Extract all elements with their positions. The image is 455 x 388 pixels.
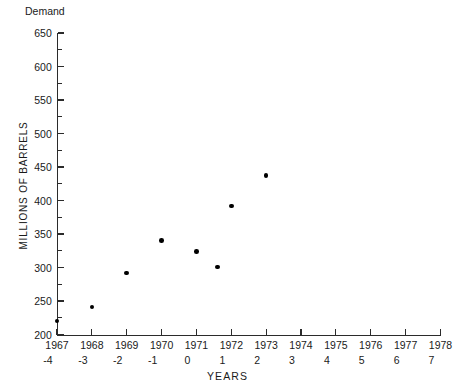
y-tick-label-wrap: 550 bbox=[18, 100, 52, 101]
y-tick-major bbox=[58, 334, 64, 335]
y-tick-label-wrap: 500 bbox=[18, 134, 52, 135]
y-tick-label: 500 bbox=[22, 129, 52, 140]
y-tick-minor bbox=[58, 49, 62, 50]
x-tick bbox=[56, 329, 57, 335]
x-tick bbox=[196, 329, 197, 335]
y-tick-minor bbox=[58, 284, 62, 285]
y-tick-major bbox=[58, 233, 64, 234]
x-tick bbox=[370, 329, 371, 335]
data-point bbox=[215, 265, 220, 270]
y-tick-minor bbox=[58, 250, 62, 251]
y-tick-label-wrap: 250 bbox=[18, 301, 52, 302]
y-tick-minor bbox=[58, 116, 62, 117]
x-tick bbox=[335, 329, 336, 335]
y-tick-major bbox=[58, 267, 64, 268]
x-tick bbox=[91, 329, 92, 335]
x-tick bbox=[126, 329, 127, 335]
x-tick-label-code: 7 bbox=[412, 355, 452, 366]
y-tick-label: 450 bbox=[22, 162, 52, 173]
y-tick-label-wrap: 600 bbox=[18, 67, 52, 68]
x-tick bbox=[440, 329, 441, 335]
y-tick-label: 400 bbox=[22, 196, 52, 207]
x-tick bbox=[231, 329, 232, 335]
y-tick-label-wrap: 450 bbox=[18, 167, 52, 168]
y-tick-major bbox=[58, 200, 64, 201]
data-point bbox=[55, 319, 60, 324]
y-tick-major bbox=[58, 32, 64, 33]
data-point bbox=[90, 305, 95, 310]
y-tick-label: 600 bbox=[22, 62, 52, 73]
y-tick-label: 350 bbox=[22, 229, 52, 240]
y-tick-minor bbox=[58, 317, 62, 318]
data-point bbox=[124, 271, 129, 276]
x-tick bbox=[161, 329, 162, 335]
y-tick-label: 250 bbox=[22, 296, 52, 307]
y-tick-label-wrap: 350 bbox=[18, 234, 52, 235]
x-tick bbox=[266, 329, 267, 335]
y-tick-minor bbox=[58, 150, 62, 151]
y-tick-label: 550 bbox=[22, 95, 52, 106]
x-tick-label-year: 1978 bbox=[421, 340, 455, 351]
demand-axis-caption: Demand bbox=[25, 6, 65, 17]
x-axis-line bbox=[57, 335, 441, 336]
data-point bbox=[194, 249, 199, 254]
y-tick-minor bbox=[58, 217, 62, 218]
y-tick-label-wrap: 400 bbox=[18, 201, 52, 202]
y-tick-major bbox=[58, 133, 64, 134]
y-tick-label: 300 bbox=[22, 263, 52, 274]
y-tick-label-wrap: 200 bbox=[18, 335, 52, 336]
data-point bbox=[159, 238, 164, 243]
y-tick-label-wrap: 650 bbox=[18, 33, 52, 34]
scatter-chart: Demand MILLIONS OF BARRELS YEARS 2002503… bbox=[0, 0, 455, 388]
x-tick bbox=[300, 329, 301, 335]
y-tick-major bbox=[58, 166, 64, 167]
data-point bbox=[264, 173, 269, 178]
y-tick-major bbox=[58, 66, 64, 67]
data-point bbox=[229, 204, 234, 209]
y-tick-minor bbox=[58, 183, 62, 184]
y-tick-major bbox=[58, 300, 64, 301]
x-tick bbox=[405, 329, 406, 335]
y-axis-title: MILLIONS OF BARRELS bbox=[18, 101, 29, 271]
y-tick-major bbox=[58, 99, 64, 100]
y-tick-label: 650 bbox=[22, 28, 52, 39]
y-tick-minor bbox=[58, 83, 62, 84]
x-axis-title: YEARS bbox=[0, 370, 455, 382]
y-tick-label-wrap: 300 bbox=[18, 268, 52, 269]
